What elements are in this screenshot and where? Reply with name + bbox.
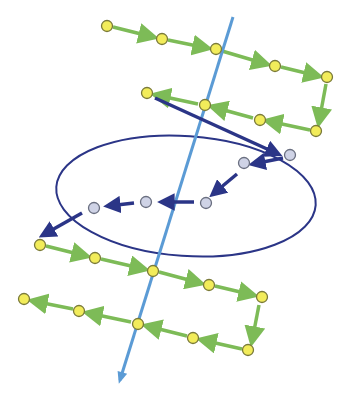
yellow-node	[204, 280, 215, 291]
flow-diagram	[0, 0, 352, 400]
yellow-node	[142, 88, 153, 99]
yellow-node	[148, 266, 159, 277]
yellow-node	[102, 21, 113, 32]
yellow-node	[211, 44, 222, 55]
yellow-node	[243, 345, 254, 356]
grey-node	[141, 197, 152, 208]
yellow-node	[200, 100, 211, 111]
yellow-node	[19, 294, 30, 305]
yellow-node	[188, 333, 199, 344]
yellow-node	[90, 253, 101, 264]
yellow-node	[257, 292, 268, 303]
grey-node	[201, 198, 212, 209]
yellow-node	[74, 306, 85, 317]
grey-node	[89, 203, 100, 214]
grey-node	[239, 158, 250, 169]
yellow-node	[322, 72, 333, 83]
yellow-node	[35, 240, 46, 251]
yellow-node	[255, 115, 266, 126]
yellow-node	[157, 34, 168, 45]
yellow-node	[311, 126, 322, 137]
yellow-node	[270, 61, 281, 72]
yellow-node	[133, 319, 144, 330]
grey-node	[285, 150, 296, 161]
